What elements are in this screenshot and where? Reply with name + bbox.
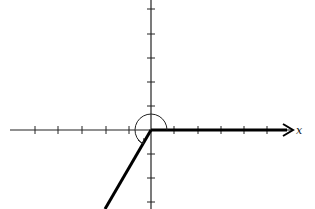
terminal-side-ray <box>105 130 151 209</box>
coordinate-plane-diagram: x <box>0 0 315 209</box>
x-axis-label: x <box>296 124 303 137</box>
